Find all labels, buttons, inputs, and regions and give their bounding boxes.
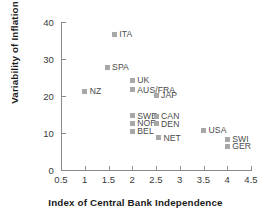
x-tick	[156, 166, 157, 170]
data-point-marker	[156, 135, 161, 140]
data-point-label: NZ	[90, 87, 102, 96]
data-point-marker	[154, 93, 159, 98]
y-tick	[62, 133, 66, 134]
data-point: GER	[225, 142, 251, 151]
x-tick-label: 4.5	[244, 174, 258, 185]
data-point: USA	[201, 126, 226, 135]
data-point-label: JAP	[161, 91, 177, 100]
data-point: NET	[156, 134, 181, 143]
x-tick-label: 2.5	[149, 174, 163, 185]
x-axis-title: Index of Central Bank Independence	[0, 197, 271, 208]
x-tick-label: 4	[225, 174, 230, 185]
data-point-label: DEN	[161, 120, 179, 129]
x-tick	[109, 166, 110, 170]
data-point: NZ	[82, 87, 101, 96]
data-point-marker	[130, 113, 135, 118]
data-point-marker	[82, 89, 87, 94]
x-tick	[85, 166, 86, 170]
data-point-label: GER	[232, 142, 251, 151]
y-tick	[62, 96, 66, 97]
data-point-marker	[130, 78, 135, 83]
x-tick	[204, 166, 205, 170]
data-point-label: USA	[209, 126, 227, 135]
data-point: UK	[130, 76, 150, 85]
data-point-label: BEL	[137, 127, 154, 136]
x-tick	[251, 166, 252, 170]
data-point: ITA	[112, 30, 133, 39]
x-tick-label: 1	[82, 174, 87, 185]
x-tick	[227, 166, 228, 170]
x-tick-label: 1.5	[102, 174, 116, 185]
data-point-marker	[201, 128, 206, 133]
x-tick-label: 0.5	[54, 174, 68, 185]
y-axis-title: Variability of Inflation	[9, 0, 20, 123]
y-tick	[62, 170, 66, 171]
y-tick	[62, 59, 66, 60]
data-point-label: NET	[163, 134, 181, 143]
data-point-marker	[225, 144, 230, 149]
x-axis-line	[61, 170, 252, 171]
data-point: SPA	[105, 63, 129, 72]
data-point-marker	[105, 65, 110, 70]
y-tick-label: 10	[0, 128, 54, 139]
x-tick	[132, 166, 133, 170]
data-point-marker	[154, 121, 159, 126]
data-point-marker	[130, 129, 135, 134]
data-point: BEL	[130, 127, 154, 136]
x-tick-label: 3.5	[197, 174, 211, 185]
x-tick-label: 3	[177, 174, 182, 185]
y-tick-label: 0	[0, 165, 54, 176]
data-point-marker	[112, 32, 117, 37]
scatter-chart: 0.511.522.533.544.5 010203040 ITASPANZUK…	[0, 0, 271, 214]
data-point: JAP	[154, 91, 178, 100]
x-tick-label: 2	[130, 174, 135, 185]
data-point-marker	[130, 87, 135, 92]
data-point-label: SPA	[112, 63, 129, 72]
data-point-label: UK	[137, 76, 149, 85]
data-point-label: ITA	[119, 30, 132, 39]
x-tick	[180, 166, 181, 170]
y-tick	[62, 22, 66, 23]
data-point-marker	[130, 121, 135, 126]
data-point: DEN	[154, 120, 180, 129]
